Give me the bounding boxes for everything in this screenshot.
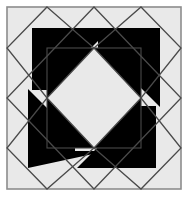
quilt-block-figure: Black and white geometric quilt block wi… — [0, 0, 188, 199]
quilt-block-canvas: Black and white geometric quilt block wi… — [0, 0, 188, 199]
